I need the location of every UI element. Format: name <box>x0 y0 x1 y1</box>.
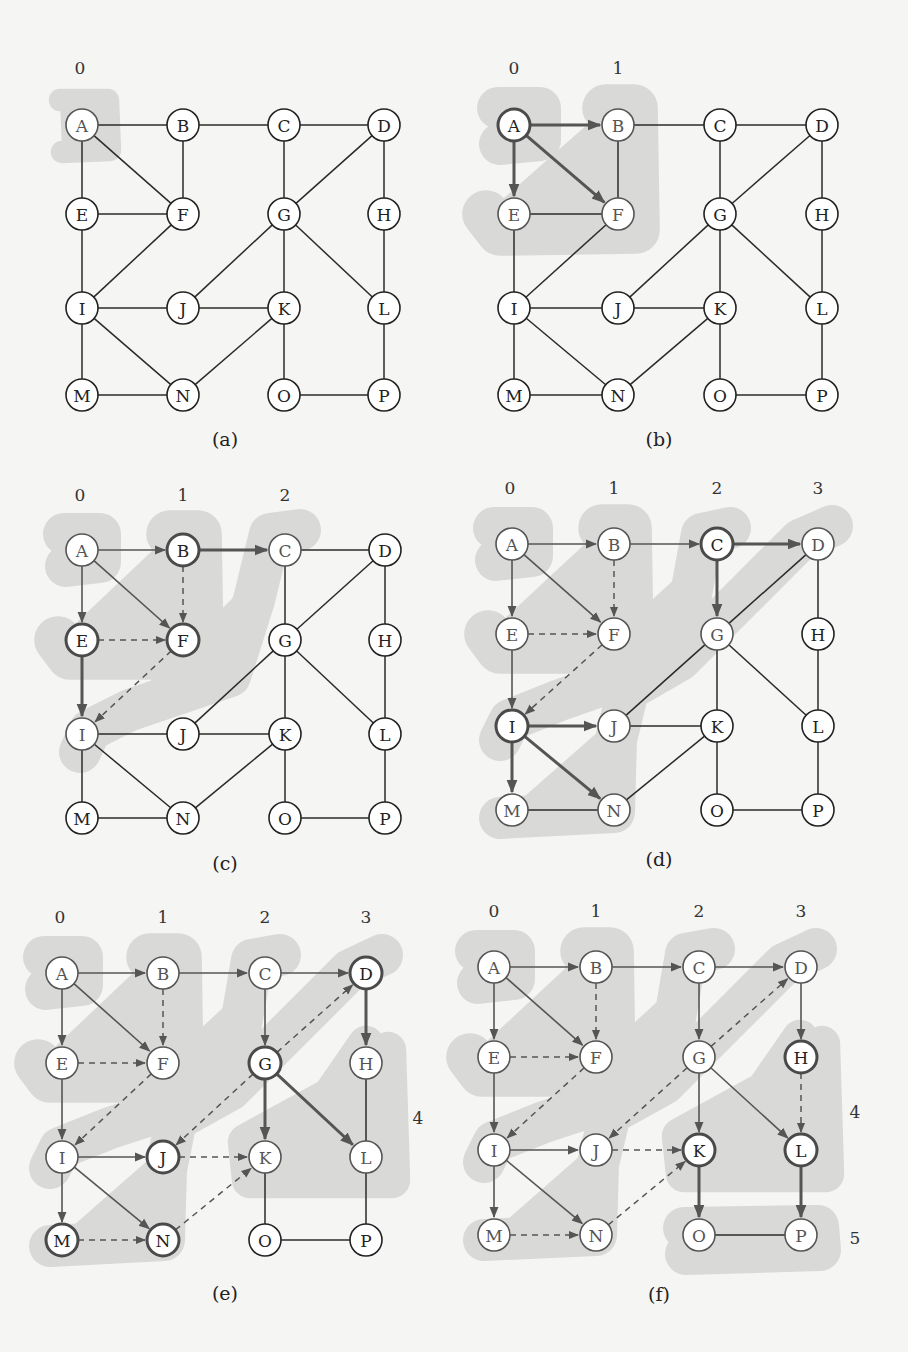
node-label: O <box>710 801 724 821</box>
node-D: D <box>806 109 838 141</box>
panel-b: ABCDEFGHIJKLMNOP01(b) <box>486 58 838 450</box>
level-label: 0 <box>55 907 66 927</box>
node-label: A <box>487 958 501 978</box>
node-label: P <box>795 1226 806 1246</box>
node-label: M <box>503 801 520 821</box>
node-N: N <box>167 379 199 411</box>
node-J: J <box>167 718 199 750</box>
node-F: F <box>580 1041 612 1073</box>
node-G: G <box>704 198 736 230</box>
level-label: 0 <box>505 478 516 498</box>
node-F: F <box>602 198 634 230</box>
edge-G-J <box>195 225 273 297</box>
node-label: L <box>378 299 389 319</box>
node-label: M <box>53 1231 70 1251</box>
node-label: O <box>692 1226 706 1246</box>
node-label: H <box>377 205 392 225</box>
edge-K-N <box>626 736 704 800</box>
node-label: K <box>714 299 727 319</box>
bfs-figure: ABCDEFGHIJKLMNOP0(a)ABCDEFGHIJKLMNOP01(b… <box>0 0 908 1352</box>
node-J: J <box>602 292 634 324</box>
node-P: P <box>350 1224 382 1256</box>
node-D: D <box>802 528 834 560</box>
node-O: O <box>683 1219 715 1251</box>
panel-caption: (e) <box>212 1282 238 1304</box>
node-G: G <box>269 624 301 656</box>
edge-A-F <box>94 136 171 204</box>
node-L: L <box>369 718 401 750</box>
node-label: L <box>360 1148 371 1168</box>
node-label: G <box>692 1048 706 1068</box>
node-label: J <box>609 717 618 737</box>
node-label: F <box>612 205 624 225</box>
node-label: B <box>612 116 625 136</box>
edge-G-L <box>297 651 374 723</box>
node-label: N <box>176 386 191 406</box>
node-A: A <box>66 109 98 141</box>
panel-d: ABCDEFGHIJKLMNOP0123(d) <box>488 478 834 870</box>
node-label: F <box>177 631 189 651</box>
node-L: L <box>806 292 838 324</box>
node-O: O <box>268 379 300 411</box>
node-F: F <box>147 1047 179 1079</box>
node-label: K <box>693 1141 706 1161</box>
node-I: I <box>498 292 530 324</box>
level-label: 4 <box>413 1108 424 1128</box>
node-label: N <box>611 386 626 406</box>
node-B: B <box>147 957 179 989</box>
panel-caption: (f) <box>648 1283 670 1305</box>
node-C: C <box>683 951 715 983</box>
level-label: 3 <box>361 907 372 927</box>
node-label: O <box>258 1231 272 1251</box>
node-label: K <box>279 725 292 745</box>
node-C: C <box>268 109 300 141</box>
node-label: C <box>692 958 705 978</box>
level-label: 1 <box>178 485 189 505</box>
node-A: A <box>498 109 530 141</box>
node-label: H <box>815 205 830 225</box>
node-G: G <box>701 618 733 650</box>
node-label: G <box>713 205 727 225</box>
node-label: L <box>379 725 390 745</box>
node-C: C <box>249 957 281 989</box>
node-label: B <box>157 964 170 984</box>
node-label: N <box>589 1226 604 1246</box>
node-label: K <box>259 1148 272 1168</box>
node-label: I <box>509 717 516 737</box>
node-label: B <box>590 958 603 978</box>
level-label: 2 <box>280 485 291 505</box>
node-I: I <box>46 1141 78 1173</box>
node-F: F <box>167 198 199 230</box>
node-J: J <box>580 1134 612 1166</box>
node-E: E <box>66 198 98 230</box>
node-label: M <box>73 809 90 829</box>
node-label: E <box>56 1054 68 1074</box>
node-label: G <box>258 1054 272 1074</box>
level-label: 1 <box>609 478 620 498</box>
node-B: B <box>602 109 634 141</box>
level-label: 2 <box>260 907 271 927</box>
node-M: M <box>496 794 528 826</box>
bfs-panels-canvas: ABCDEFGHIJKLMNOP0(a)ABCDEFGHIJKLMNOP01(b… <box>0 0 908 1352</box>
node-label: A <box>75 116 89 136</box>
node-P: P <box>785 1219 817 1251</box>
node-label: L <box>812 717 823 737</box>
node-label: I <box>491 1141 498 1161</box>
panel-caption: (a) <box>212 428 238 450</box>
node-label: M <box>73 386 90 406</box>
node-label: O <box>713 386 727 406</box>
node-G: G <box>268 198 300 230</box>
node-label: F <box>608 625 620 645</box>
node-K: K <box>683 1134 715 1166</box>
node-label: K <box>278 299 291 319</box>
edge-G-L <box>729 645 806 715</box>
node-label: P <box>812 801 823 821</box>
node-O: O <box>249 1224 281 1256</box>
node-J: J <box>147 1141 179 1173</box>
node-A: A <box>66 534 98 566</box>
node-label: C <box>258 964 271 984</box>
node-I: I <box>66 292 98 324</box>
level-label: 0 <box>75 58 86 78</box>
node-label: O <box>277 386 291 406</box>
level-label: 2 <box>694 901 705 921</box>
